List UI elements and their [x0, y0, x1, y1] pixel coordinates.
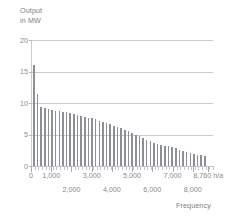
y-tick-label-20: 20: [10, 37, 28, 45]
bar: [113, 126, 115, 166]
x-tick-mark-minor: [118, 166, 119, 170]
x-tick-mark-minor: [129, 166, 130, 170]
x-tick-mark-minor: [169, 166, 170, 170]
x-tick-mark-minor: [137, 166, 138, 170]
x-tick-label-1000: 1,000: [42, 172, 60, 180]
bar: [157, 144, 159, 166]
bar: [164, 146, 166, 166]
bar: [171, 147, 173, 166]
bar: [175, 148, 177, 166]
bar: [109, 124, 111, 166]
y-tick-label-10: 10: [10, 100, 28, 108]
y-axis-title-line-1: Output: [20, 6, 42, 16]
x-tick-mark-minor: [42, 166, 43, 170]
x-tick-label-4000: 4,000: [103, 186, 121, 194]
x-tick-mark-minor: [104, 166, 105, 170]
x-tick-mark-minor: [93, 166, 94, 170]
bar: [62, 112, 64, 166]
bar: [168, 146, 170, 166]
bar: [91, 118, 93, 166]
x-tick-mark-minor: [198, 166, 199, 170]
x-tick-mark-minor: [60, 166, 61, 170]
x-tick-mark-minor: [180, 166, 181, 170]
bar: [131, 133, 133, 166]
load-duration-chart: Output in MW 05101520 01,0003,0005,0007,…: [0, 0, 227, 220]
bar: [95, 119, 97, 166]
bar: [204, 156, 206, 166]
x-tick-mark-minor: [122, 166, 123, 170]
x-tick-mark-minor: [140, 166, 141, 170]
x-tick-mark-minor: [97, 166, 98, 170]
y-tick-label-15: 15: [10, 68, 28, 76]
bar: [117, 127, 119, 166]
bar: [186, 152, 188, 166]
x-axis-labels-row-1: 01,0003,0005,0007,0008,760 h/a: [31, 172, 213, 182]
bar: [80, 116, 82, 166]
x-tick-mark-minor: [49, 166, 50, 170]
x-tick-mark-minor: [38, 166, 39, 170]
x-axis-labels-row-2: 2,0004,0006,0008,000: [31, 186, 213, 196]
x-tick-mark-minor: [209, 166, 210, 170]
x-tick-label-6000: 6,000: [143, 186, 161, 194]
x-tick-mark-minor: [202, 166, 203, 170]
bar: [59, 111, 61, 166]
bar: [66, 112, 68, 166]
x-tick-mark-6000: [152, 166, 153, 172]
x-tick-mark-minor: [67, 166, 68, 170]
plot-area: 05101520: [31, 40, 213, 166]
x-tick-mark-2000: [71, 166, 72, 172]
x-tick-mark-minor: [195, 166, 196, 170]
y-axis-title: Output in MW: [20, 6, 42, 25]
x-tick-label-8760: 8,760 h/a: [193, 172, 223, 180]
x-tick-mark-minor: [184, 166, 185, 170]
x-tick-mark-minor: [64, 166, 65, 170]
bar: [48, 109, 50, 166]
bar: [106, 123, 108, 166]
gridline-y-20: [31, 40, 213, 41]
x-tick-mark-minor: [126, 166, 127, 170]
x-tick-mark-minor: [35, 166, 36, 170]
bar: [102, 122, 104, 166]
x-tick-mark-minor: [213, 166, 214, 170]
x-axis-title: Frequency: [176, 201, 211, 211]
x-tick-label-3000: 3,000: [83, 172, 101, 180]
x-tick-label-2000: 2,000: [62, 186, 80, 194]
bar: [44, 108, 46, 166]
x-tick-mark-minor: [144, 166, 145, 170]
bar: [99, 121, 101, 166]
bar: [200, 155, 202, 166]
bar: [135, 135, 137, 167]
x-tick-mark-minor: [147, 166, 148, 170]
y-tick-mark-15: [29, 72, 32, 73]
bar: [150, 141, 152, 166]
y-tick-label-5: 5: [10, 131, 28, 139]
x-tick-label-8000: 8,000: [184, 186, 202, 194]
bar: [193, 154, 195, 166]
bar: [139, 136, 141, 166]
y-axis-title-line-2: in MW: [20, 16, 42, 26]
x-tick-mark-minor: [100, 166, 101, 170]
x-tick-mark-minor: [75, 166, 76, 170]
gridline-y-10: [31, 103, 213, 104]
bar: [160, 145, 162, 166]
x-tick-mark-4000: [112, 166, 113, 172]
x-tick-label-7000: 7,000: [164, 172, 182, 180]
bar: [73, 114, 75, 166]
bar: [69, 113, 71, 166]
bar: [146, 140, 148, 166]
bar: [128, 131, 130, 166]
bar: [182, 151, 184, 166]
bar: [55, 111, 57, 166]
x-tick-label-0: 0: [29, 172, 33, 180]
bar: [40, 107, 42, 166]
x-tick-mark-minor: [158, 166, 159, 170]
y-tick-mark-5: [29, 135, 32, 136]
x-tick-mark-minor: [78, 166, 79, 170]
x-tick-mark-minor: [56, 166, 57, 170]
x-tick-mark-minor: [155, 166, 156, 170]
bar: [33, 65, 35, 166]
bar: [84, 117, 86, 166]
x-tick-mark-minor: [188, 166, 189, 170]
x-tick-mark-minor: [53, 166, 54, 170]
x-tick-mark-minor: [206, 166, 207, 170]
